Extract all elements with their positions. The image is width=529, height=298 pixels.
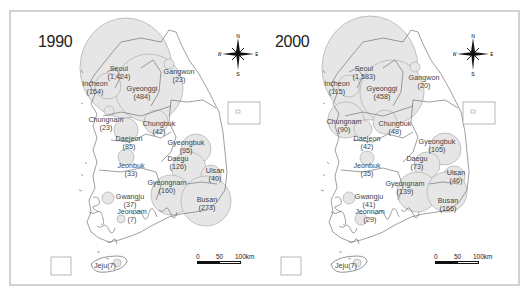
- scale-bar: 0 50 100km: [197, 253, 257, 269]
- year-title: 2000: [275, 33, 309, 51]
- svg-text:S: S: [471, 71, 475, 76]
- label-jeju: Jeju(7): [94, 262, 116, 270]
- label-gyeongbuk: Gyeongbuk(95): [168, 139, 205, 155]
- label-daejeon: Daejeon(85): [116, 135, 143, 151]
- label-gyeongnam: Gyeongnam(139): [385, 180, 424, 196]
- inset-box-islands: [51, 257, 71, 275]
- svg-text:W: W: [453, 51, 457, 57]
- label-daegu: Daegu(73): [406, 155, 427, 171]
- inset-box-ulleung: [228, 102, 260, 124]
- label-seoul: Seoul(1,583): [353, 65, 376, 81]
- label-jeonbuk: Jeonbuk(35): [353, 162, 380, 178]
- label-gyeongbuk: Gyeongbuk(105): [419, 138, 456, 154]
- label-incheon: Incheon(115): [324, 80, 350, 96]
- label-busan: Busan(166): [438, 197, 458, 213]
- map-figure-frame: 1990 Seoul(1,424) Incheon(154) Gyeonggi(…: [9, 10, 520, 286]
- label-chungnam: Chungnam(90): [326, 118, 361, 134]
- svg-text:S: S: [236, 71, 240, 76]
- label-gyeonggi: Gyeonggi(458): [367, 85, 398, 101]
- label-jeju: Jeju(7): [335, 262, 357, 270]
- label-gyeongnam: Gyeongnam(160): [147, 179, 186, 195]
- label-gangwon: Gangwon(20): [409, 74, 440, 90]
- svg-text:W: W: [218, 51, 222, 57]
- label-ulsan: Ulsan(40): [206, 167, 224, 183]
- label-incheon: Incheon(154): [82, 80, 108, 96]
- scale-bar: 0 50 100km: [435, 253, 495, 269]
- label-gangwon: Gangwon(23): [164, 68, 195, 84]
- svg-text:N: N: [236, 33, 240, 39]
- north-arrow-compass-icon: N S E W: [453, 32, 493, 76]
- north-arrow-compass-icon: N S E W: [218, 32, 258, 76]
- label-busan: Busan(273): [197, 196, 217, 212]
- inset-box-islands: [281, 257, 301, 275]
- label-chungnam: Chungnam(23): [88, 116, 123, 132]
- svg-text:N: N: [471, 33, 475, 39]
- label-jeonnam: Jeonnam(7): [117, 208, 147, 224]
- svg-text:E: E: [255, 51, 258, 57]
- label-seoul: Seoul(1,424): [108, 65, 131, 81]
- label-chungbuk: Chungbuk(42): [143, 120, 176, 136]
- label-gyeonggi: Gyeonggi(484): [127, 85, 158, 101]
- label-chungbuk: Chungbuk(48): [379, 120, 412, 136]
- map-panel-1990: 1990 Seoul(1,424) Incheon(154) Gyeonggi(…: [11, 12, 266, 286]
- year-title: 1990: [38, 33, 72, 51]
- svg-text:E: E: [490, 51, 493, 57]
- label-ulsan: Ulsan(46): [447, 169, 465, 185]
- label-jeonnam: Jeonnam(29): [355, 208, 385, 224]
- label-daegu: Daegu(126): [167, 155, 188, 171]
- proportional-bubbles: [80, 18, 231, 267]
- map-panel-2000: 2000 Seoul(1,583) Incheon(115) Gyeonggi(…: [267, 12, 522, 286]
- label-jeonbuk: Jeonbuk(33): [117, 162, 144, 178]
- label-daejeon: Daejeon(42): [354, 135, 381, 151]
- inset-box-ulleung: [463, 102, 495, 124]
